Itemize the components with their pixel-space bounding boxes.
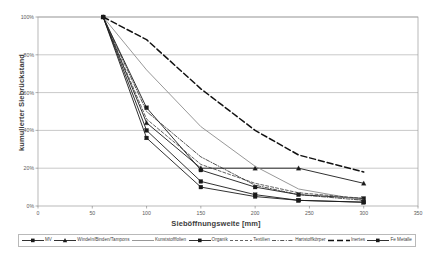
legend-item[interactable]: Windeln/Binden/Tampons: [54, 237, 129, 244]
data-point-marker: [199, 180, 203, 184]
plot-frame: [38, 17, 418, 206]
data-point-marker: [253, 195, 257, 199]
legend-label: MV: [45, 238, 52, 243]
legend-item[interactable]: Fe Metalle: [367, 237, 411, 244]
legend-item[interactable]: Kunststofffolien: [132, 237, 186, 244]
data-point-marker: [101, 15, 105, 19]
chart-legend: MVWindeln/Binden/TamponsKunststofffolien…: [18, 234, 416, 247]
y-tick-label: 0%: [27, 203, 35, 209]
plot-canvas: 0%20%40%60%80%100%050100150200250300350: [0, 0, 432, 232]
line-square-marker-icon: [367, 237, 389, 244]
x-tick-label: 150: [197, 210, 206, 216]
legend-item[interactable]: Inertes: [328, 237, 365, 244]
legend-label: Organik: [212, 238, 228, 243]
line-plain-dark-icon: [328, 237, 350, 244]
sieve-curve-chart: 0%20%40%60%80%100%050100150200250300350 …: [0, 0, 432, 260]
legend-item[interactable]: Hartstoffkörper: [272, 237, 325, 244]
x-tick-label: 100: [142, 210, 151, 216]
x-tick-label: 200: [251, 210, 260, 216]
x-tick-label: 50: [89, 210, 95, 216]
data-point-marker: [145, 129, 149, 133]
legend-label: Textilien: [253, 238, 270, 243]
x-tick-label: 250: [305, 210, 314, 216]
legend-label: Fe Metalle: [390, 238, 411, 243]
line-dashdot-icon: [272, 237, 294, 244]
data-point-marker: [253, 185, 257, 189]
line-dashed-fine-icon: [230, 237, 252, 244]
data-point-marker: [145, 136, 149, 140]
legend-label: Inertes: [351, 238, 365, 243]
legend-item[interactable]: MV: [22, 237, 52, 244]
line-square-marker-icon: [22, 237, 44, 244]
x-tick-label: 0: [37, 210, 40, 216]
x-tick-label: 350: [414, 210, 423, 216]
line-plain-gray-icon: [132, 237, 154, 244]
x-axis-title: Sieböffnungsweite [mm]: [0, 219, 432, 228]
legend-item[interactable]: Textilien: [230, 237, 270, 244]
data-point-marker: [362, 200, 366, 204]
data-point-marker: [199, 185, 203, 189]
x-tick-label: 300: [359, 210, 368, 216]
legend-label: Hartstoffkörper: [295, 238, 325, 243]
legend-label: Windeln/Binden/Tampons: [77, 238, 129, 243]
line-triangle-marker-icon: [54, 237, 76, 244]
legend-item[interactable]: Organik: [189, 237, 228, 244]
data-point-marker: [297, 198, 301, 202]
line-square-marker-icon: [189, 237, 211, 244]
legend-label: Kunststofffolien: [155, 238, 186, 243]
y-axis-title: kumulierter Siebrückstand: [17, 18, 26, 188]
